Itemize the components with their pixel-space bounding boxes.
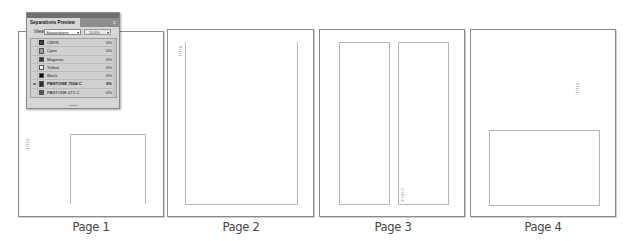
ink-name: Magenta <box>47 56 63 64</box>
ink-row-yellow[interactable]: Yellow 0% <box>31 64 116 72</box>
ink-list: CMYK 0% Cyan 0% Magenta 0% Yellow 0% Bla… <box>30 38 117 98</box>
zoom-dropdown[interactable]: 100% ▾ <box>84 29 111 35</box>
ink-name: Cyan <box>47 47 57 55</box>
page-2-thumbnail[interactable]: TITLE <box>167 29 314 217</box>
ink-name: Yellow <box>47 64 59 72</box>
view-dropdown[interactable]: Separations ▾ <box>44 29 81 35</box>
chevron-down-icon: ▾ <box>77 30 79 35</box>
ink-name: PANTONE 471 C <box>47 89 79 97</box>
ink-swatch <box>39 65 44 70</box>
ink-row-pantone-471c[interactable]: PANTONE 471 C 0% <box>31 89 116 97</box>
ink-row-magenta[interactable]: Magenta 0% <box>31 56 116 64</box>
slug-text: TITLE <box>575 82 580 94</box>
column-left <box>339 42 390 205</box>
ink-row-black[interactable]: Black 0% <box>31 72 116 80</box>
zoom-dropdown-value: 100% <box>89 30 100 35</box>
page-3-label: Page 3 <box>353 220 433 234</box>
visibility-toggle[interactable] <box>31 47 38 54</box>
ink-row-cmyk[interactable]: CMYK 0% <box>31 39 116 47</box>
visibility-toggle[interactable] <box>31 39 38 46</box>
visibility-toggle[interactable] <box>31 64 38 71</box>
ink-row-cyan[interactable]: Cyan 0% <box>31 47 116 55</box>
ink-name: Black <box>47 72 57 80</box>
ink-list-scrollbar[interactable] <box>113 39 116 97</box>
resize-grip-icon[interactable] <box>69 105 77 106</box>
ink-percent: 0% <box>106 89 112 97</box>
view-row: View: Separations ▾ 100% ▾ <box>27 27 119 37</box>
ink-swatch <box>39 48 44 53</box>
panel-footer <box>27 98 119 108</box>
ink-percent: 0% <box>106 64 112 72</box>
ink-swatch <box>39 57 44 62</box>
ink-percent: 0% <box>106 39 112 47</box>
page-1-label: Page 1 <box>51 220 131 234</box>
panel-tab-bar: Separations Preview ≡ <box>27 18 119 27</box>
ink-percent: 0% <box>106 72 112 80</box>
ink-swatch <box>39 73 44 78</box>
column-right <box>398 42 449 205</box>
column-divider <box>389 42 390 205</box>
chevron-down-icon: ▾ <box>107 30 109 35</box>
panel-menu-icon[interactable]: ≡ <box>113 19 116 26</box>
visibility-toggle[interactable] <box>31 80 38 87</box>
slug-text: TITLE <box>178 45 183 57</box>
ink-percent: 0% <box>106 56 112 64</box>
page-3-thumbnail[interactable]: FOLIO <box>319 29 465 217</box>
frame-box <box>489 130 600 206</box>
ink-swatch <box>39 90 44 95</box>
separations-preview-panel: ·· Separations Preview ≡ View: Separatio… <box>26 12 120 109</box>
slug-text: TITLE <box>25 138 30 150</box>
ink-percent: 0% <box>106 80 112 88</box>
visibility-toggle[interactable] <box>31 56 38 63</box>
visibility-toggle[interactable] <box>31 89 38 97</box>
ink-swatch <box>39 81 44 86</box>
view-dropdown-value: Separations <box>46 30 69 35</box>
ink-name: CMYK <box>47 39 59 47</box>
ink-row-pantone-7554c[interactable]: PANTONE 7554 C 0% <box>31 80 116 88</box>
ink-percent: 0% <box>106 47 112 55</box>
frame-box <box>70 134 146 204</box>
slug-text: FOLIO <box>400 188 405 201</box>
margin-guides <box>185 42 298 205</box>
grip-icon: ·· <box>29 14 32 17</box>
page-2-label: Page 2 <box>201 220 281 234</box>
page-4-thumbnail[interactable]: TITLE <box>470 29 616 217</box>
visibility-toggle[interactable] <box>31 72 38 79</box>
ink-name: PANTONE 7554 C <box>47 80 82 88</box>
page-4-label: Page 4 <box>503 220 583 234</box>
cmyk-icon <box>39 40 44 45</box>
tab-separations-preview[interactable]: Separations Preview <box>27 18 81 27</box>
eye-icon <box>33 83 36 85</box>
